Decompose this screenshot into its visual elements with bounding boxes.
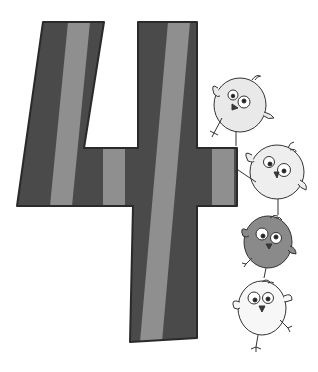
bird-bottom bbox=[233, 280, 292, 352]
bird-third bbox=[242, 215, 296, 278]
number-four-illustration bbox=[0, 0, 318, 372]
bird-top bbox=[210, 76, 274, 147]
illustration-canvas bbox=[0, 0, 318, 372]
stripe-right bbox=[212, 148, 234, 206]
bird-second bbox=[235, 142, 306, 215]
stripe-crossbar bbox=[103, 148, 125, 206]
